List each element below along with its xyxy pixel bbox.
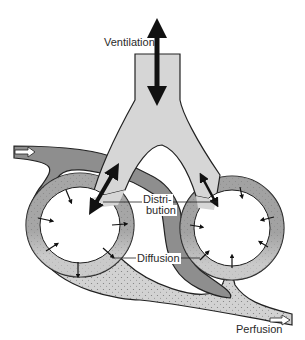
perfusion-label: Perfusion	[235, 324, 283, 335]
diffusion-label: Diffusion	[136, 253, 181, 264]
distribution-label-line2: bution	[145, 205, 177, 216]
ventilation-label: Ventilation	[103, 37, 156, 48]
lung-diagram	[0, 0, 305, 340]
